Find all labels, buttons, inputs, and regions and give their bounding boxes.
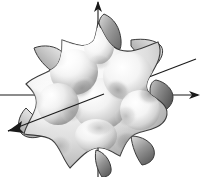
rear-lobe-lower-right bbox=[131, 136, 154, 165]
notch-shadow-bottom-left bbox=[47, 134, 73, 158]
orbital-figure-svg bbox=[0, 0, 201, 177]
orbital-figure: Star-shaped orbital isosurface with coor… bbox=[0, 0, 201, 177]
